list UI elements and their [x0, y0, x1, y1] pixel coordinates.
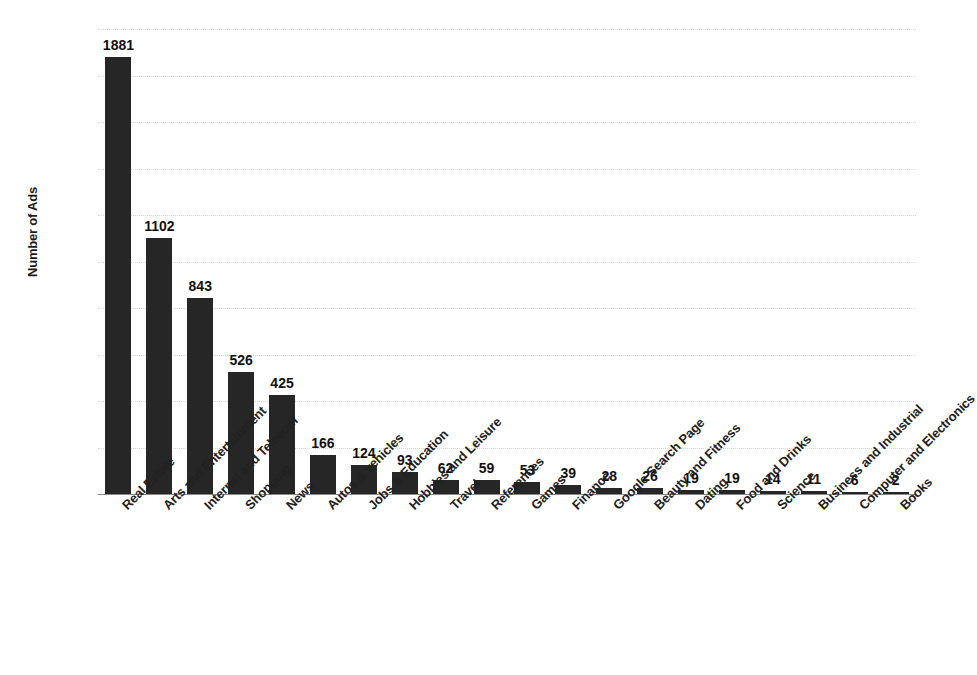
bar-value-label: 59 [479, 461, 495, 475]
bar-slot: 11 [793, 29, 834, 494]
bar-value-label: 526 [229, 353, 252, 367]
bar-slot: 62 [425, 29, 466, 494]
bar-slot: 26 [630, 29, 671, 494]
bar-slot: 166 [303, 29, 344, 494]
bar-value-label: 1881 [103, 38, 134, 52]
bar-value-label: 425 [270, 376, 293, 390]
bar-slot: 53 [507, 29, 548, 494]
bar-value-label: 843 [189, 279, 212, 293]
bar-slot: 1102 [139, 29, 180, 494]
bar-value-label: 166 [311, 436, 334, 450]
bar-value-label: 1102 [144, 219, 174, 233]
bar[interactable] [105, 57, 131, 494]
bar-slot: 1881 [98, 29, 139, 494]
bar-slot: 6 [834, 29, 875, 494]
bar-slot: 14 [752, 29, 793, 494]
bar-slot: 124 [343, 29, 384, 494]
y-axis-title: Number of Ads [25, 152, 45, 312]
bar-slot: 93 [384, 29, 425, 494]
bar-slot: 39 [548, 29, 589, 494]
bar-slot: 28 [589, 29, 630, 494]
plot-area: 1881110284352642516612493625953392826191… [98, 29, 916, 494]
bar-slot: 843 [180, 29, 221, 494]
